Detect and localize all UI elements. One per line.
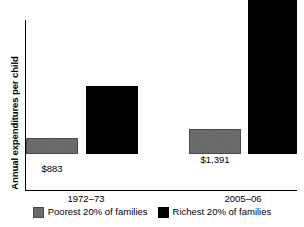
legend-item-poorest: Poorest 20% of families (33, 206, 148, 218)
bar-value-1972-73-richest: $3,740 (86, 111, 138, 122)
x-tick-1972-73: 1972–73 (56, 193, 116, 205)
legend-item-richest: Richest 20% of families (158, 206, 272, 218)
bar-value-2005-06-poorest: $1,391 (189, 154, 241, 165)
bar-chart: Annual expenditures per child $883 $3,74… (0, 0, 304, 227)
bar-2005-06-richest (248, 0, 297, 154)
x-tick-2005-06: 2005–06 (213, 193, 273, 205)
legend-swatch-poorest-icon (33, 207, 44, 218)
legend-label-poorest: Poorest 20% of families (48, 206, 148, 218)
bar-value-1972-73-poorest: $883 (26, 163, 78, 174)
bar-value-2005-06-richest: $9,384 (245, 8, 297, 19)
legend-label-richest: Richest 20% of families (173, 206, 272, 218)
legend-swatch-richest-icon (158, 207, 169, 218)
plot-area: $883 $3,740 $1,391 $9,384 (0, 0, 304, 191)
bar-1972-73-poorest (26, 138, 78, 154)
bar-2005-06-poorest (189, 129, 241, 154)
legend: Poorest 20% of families Richest 20% of f… (0, 206, 304, 218)
